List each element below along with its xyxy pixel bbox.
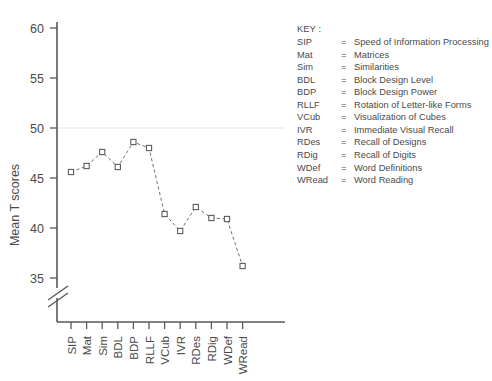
key-equals-sign: = [341, 86, 354, 99]
series-line [71, 142, 243, 266]
y-tick-label-55: 55 [30, 72, 44, 86]
x-tick-label-sim: Sim [97, 336, 109, 356]
data-point-wdef [224, 216, 229, 221]
mean-t-scores-line-chart: 60 55 50 45 40 35 Mean T scores SIPMatSi… [0, 0, 290, 381]
key-equals-sign: = [341, 49, 354, 62]
key-description: Rotation of Letter-like Forms [354, 99, 487, 112]
data-point-bdp [131, 139, 136, 144]
key-abbr: Mat [297, 49, 341, 62]
key-equals-sign: = [341, 162, 354, 175]
axis-break-icon [48, 286, 68, 307]
x-axis-tick-labels: SIPMatSimBDLBDPRLLFVCubIVRRDesRDigWDefWR… [66, 335, 250, 374]
series-markers [68, 139, 245, 268]
key-entry-sim: Sim=Similarities [297, 61, 487, 74]
key-abbr: WDef [297, 162, 341, 175]
data-point-vcub [162, 211, 167, 216]
y-tick-label-40: 40 [30, 222, 44, 236]
key-abbr: VCub [297, 111, 341, 124]
x-tick-label-sip: SIP [66, 336, 78, 355]
key-description: Recall of Digits [354, 149, 487, 162]
key-equals-sign: = [341, 136, 354, 149]
data-point-mat [84, 163, 89, 168]
key-entry-rllf: RLLF=Rotation of Letter-like Forms [297, 99, 487, 112]
key-description: Word Definitions [354, 162, 487, 175]
key-abbr: BDP [297, 86, 341, 99]
y-tick-label-50: 50 [30, 122, 44, 136]
chart-figure: 60 55 50 45 40 35 Mean T scores SIPMatSi… [0, 0, 290, 381]
y-tick-label-60: 60 [30, 22, 44, 36]
key-equals-sign: = [341, 74, 354, 87]
key-description: Immediate Visual Recall [354, 124, 487, 137]
key-abbr: RDig [297, 149, 341, 162]
key-entry-vcub: VCub=Visualization of Cubes [297, 111, 487, 124]
x-tick-label-mat: Mat [81, 335, 93, 355]
key-description: Word Reading [354, 174, 487, 187]
y-axis-title: Mean T scores [8, 164, 22, 246]
x-tick-label-vcub: VCub [159, 336, 171, 365]
x-tick-label-rdig: RDig [206, 336, 218, 362]
key-description: Block Design Power [354, 86, 487, 99]
key-abbr: SIP [297, 36, 341, 49]
data-point-rllf [146, 145, 151, 150]
key-entry-rdes: RDes=Recall of Designs [297, 136, 487, 149]
data-point-sim [100, 149, 105, 154]
data-point-ivr [178, 228, 183, 233]
x-tick-label-ivr: IVR [175, 336, 187, 355]
key-entry-list: SIP=Speed of Information ProcessingMat=M… [297, 36, 487, 187]
x-tick-label-wread: WRead [237, 336, 249, 374]
key-equals-sign: = [341, 99, 354, 112]
y-axis-ticks [50, 28, 57, 278]
key-description: Visualization of Cubes [354, 111, 487, 124]
key-title: KEY : [297, 23, 487, 36]
key-description: Speed of Information Processing [354, 36, 489, 49]
key-legend: KEY : SIP=Speed of Information Processin… [297, 23, 487, 187]
key-abbr: WRead [297, 174, 341, 187]
y-tick-label-35: 35 [30, 272, 44, 286]
key-description: Block Design Level [354, 74, 487, 87]
key-abbr: RLLF [297, 99, 341, 112]
key-description: Similarities [354, 61, 487, 74]
x-tick-label-rdes: RDes [190, 336, 202, 365]
key-entry-wread: WRead=Word Reading [297, 174, 487, 187]
key-entry-ivr: IVR=Immediate Visual Recall [297, 124, 487, 137]
key-equals-sign: = [341, 61, 354, 74]
x-tick-label-rllf: RLLF [144, 336, 156, 364]
key-description: Recall of Designs [354, 136, 487, 149]
key-abbr: BDL [297, 74, 341, 87]
key-equals-sign: = [341, 111, 354, 124]
x-tick-label-wdef: WDef [222, 335, 234, 365]
data-point-rdes [193, 204, 198, 209]
key-abbr: IVR [297, 124, 341, 137]
key-entry-bdp: BDP=Block Design Power [297, 86, 487, 99]
key-entry-sip: SIP=Speed of Information Processing [297, 36, 487, 49]
key-abbr: RDes [297, 136, 341, 149]
key-equals-sign: = [341, 36, 354, 49]
data-point-sip [68, 169, 73, 174]
key-equals-sign: = [341, 149, 354, 162]
x-tick-label-bdl: BDL [112, 335, 124, 358]
data-series [68, 139, 245, 268]
key-entry-mat: Mat=Matrices [297, 49, 487, 62]
key-equals-sign: = [341, 124, 354, 137]
key-equals-sign: = [341, 174, 354, 187]
x-axis-ticks [71, 322, 243, 329]
data-point-wread [240, 263, 245, 268]
y-axis-tick-labels: 60 55 50 45 40 35 [30, 22, 44, 286]
key-description: Matrices [354, 49, 487, 62]
key-entry-wdef: WDef=Word Definitions [297, 162, 487, 175]
data-point-rdig [209, 215, 214, 220]
key-entry-bdl: BDL=Block Design Level [297, 74, 487, 87]
key-entry-rdig: RDig=Recall of Digits [297, 149, 487, 162]
data-point-bdl [115, 164, 120, 169]
x-tick-label-bdp: BDP [128, 336, 140, 360]
y-tick-label-45: 45 [30, 172, 44, 186]
key-abbr: Sim [297, 61, 341, 74]
